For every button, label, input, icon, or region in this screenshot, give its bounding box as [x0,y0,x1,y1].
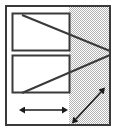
hatched-region [69,5,111,126]
diagram-svg [0,0,118,134]
lower-rectangle [13,56,70,93]
diagram-canvas [0,0,118,134]
